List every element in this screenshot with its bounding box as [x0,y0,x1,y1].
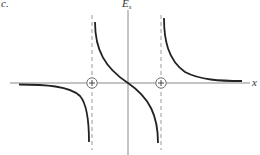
field-curve-left [19,85,89,143]
positive-charge-left-icon [87,78,97,88]
field-curve-right [164,18,242,81]
positive-charge-right-icon [156,78,166,88]
electric-field-diagram: c. Ex x [0,0,260,155]
plot-canvas [0,0,260,155]
